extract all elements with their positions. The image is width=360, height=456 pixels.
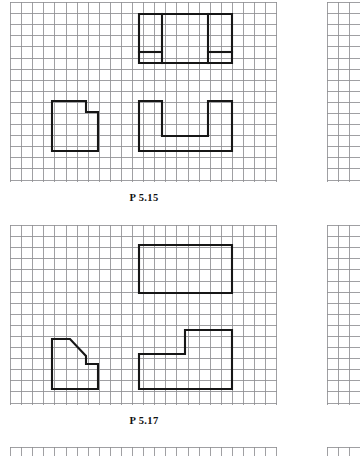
grid-vline: [132, 447, 133, 456]
front-view-outline: [139, 330, 232, 389]
panel-next-grid: [10, 447, 277, 456]
grid-hline: [327, 403, 360, 404]
grid-hline: [327, 314, 360, 315]
grid-hline: [327, 69, 360, 70]
grid-hline: [327, 369, 360, 370]
grid-hline: [327, 347, 360, 348]
grid-hline: [327, 58, 360, 59]
grid-hline: [327, 391, 360, 392]
right-strip-p515: [327, 2, 360, 182]
grid-hline: [327, 24, 360, 25]
grid-lines: [10, 447, 277, 456]
grid-hline: [327, 124, 360, 125]
grid-hline: [327, 146, 360, 147]
grid-vline: [221, 447, 222, 456]
grid-vline: [188, 447, 189, 456]
grid-lines: [327, 225, 360, 405]
grid-hline: [327, 180, 360, 181]
grid-vline: [121, 447, 122, 456]
panel-p517-side-view: [52, 339, 98, 389]
grid-vline: [154, 447, 155, 456]
grid-hline: [327, 236, 360, 237]
grid-hline: [327, 102, 360, 103]
right-strip-p517: [327, 225, 360, 405]
grid-vline: [349, 447, 350, 456]
grid-vline: [43, 447, 44, 456]
grid-hline: [327, 80, 360, 81]
grid-vline: [54, 447, 55, 456]
grid-hline: [327, 269, 360, 270]
grid-hline: [327, 258, 360, 259]
grid-lines: [327, 447, 360, 456]
grid-lines: [327, 2, 360, 182]
grid-hline: [327, 380, 360, 381]
grid-hline: [327, 168, 360, 169]
grid-hline: [327, 225, 360, 226]
grid-vline: [349, 225, 350, 405]
grid-hline: [327, 247, 360, 248]
grid-hline: [327, 157, 360, 158]
grid-vline: [88, 447, 89, 456]
grid-hline: [327, 303, 360, 304]
grid-vline: [99, 447, 100, 456]
grid-hline: [327, 35, 360, 36]
panel-p517-front-view: [139, 330, 232, 389]
grid-hline: [327, 336, 360, 337]
panel-p517-top-view: [139, 245, 232, 293]
grid-hline: [327, 281, 360, 282]
grid-vline: [276, 447, 277, 456]
top-view-outline: [139, 245, 232, 293]
grid-vline: [21, 447, 22, 456]
grid-vline: [77, 447, 78, 456]
grid-vline: [338, 447, 339, 456]
grid-hline: [327, 447, 360, 448]
grid-vline: [338, 225, 339, 405]
grid-hline: [327, 2, 360, 3]
grid-vline: [349, 2, 350, 182]
panel-p517-drawing: [0, 0, 360, 456]
grid-vline: [327, 2, 328, 182]
grid-hline: [327, 292, 360, 293]
grid-hline: [327, 113, 360, 114]
right-strip-next: [327, 447, 360, 456]
grid-vline: [110, 447, 111, 456]
grid-vline: [254, 447, 255, 456]
grid-hline: [327, 325, 360, 326]
grid-vline: [210, 447, 211, 456]
grid-vline: [338, 2, 339, 182]
grid-hline: [327, 91, 360, 92]
worksheet-page: P 5.15P 5.17: [0, 0, 360, 456]
grid-hline: [327, 135, 360, 136]
grid-hline: [327, 358, 360, 359]
grid-vline: [243, 447, 244, 456]
grid-hline: [327, 46, 360, 47]
grid-vline: [165, 447, 166, 456]
grid-vline: [176, 447, 177, 456]
grid-vline: [66, 447, 67, 456]
grid-hline: [327, 13, 360, 14]
grid-vline: [265, 447, 266, 456]
panel-p517-caption: P 5.17: [96, 415, 192, 426]
grid-vline: [143, 447, 144, 456]
grid-vline: [10, 447, 11, 456]
side-view-outline: [52, 339, 98, 389]
grid-vline: [199, 447, 200, 456]
grid-vline: [327, 447, 328, 456]
grid-vline: [32, 447, 33, 456]
grid-vline: [327, 225, 328, 405]
grid-vline: [232, 447, 233, 456]
